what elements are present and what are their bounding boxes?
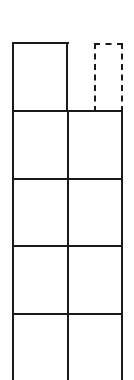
top-left-cell-left-border: [12, 42, 14, 112]
grid-cell-r2-c2: [69, 112, 121, 178]
top-left-cell: [12, 42, 68, 112]
grid-diagram: [0, 0, 134, 380]
top-left-cell-right-border: [66, 42, 68, 112]
grid-cell-r5-c2: [69, 315, 121, 380]
grid-cell-r4-c1: [14, 247, 67, 313]
grid-cell-r2-c1: [14, 112, 67, 178]
grid-cell-r3-c2: [69, 180, 121, 245]
grid-cell-r4-c2: [69, 247, 121, 313]
top-right-dashed-cell: [94, 43, 123, 112]
grid-cell-r3-c1: [14, 180, 67, 245]
grid-cell-r5-c1: [14, 315, 67, 380]
top-left-cell-top-border: [12, 42, 69, 44]
